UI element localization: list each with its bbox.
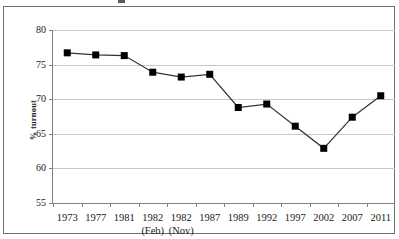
x-tick-label: 1982(Nov) (169, 211, 194, 237)
data-point-marker: 1989: 68.8 (235, 104, 242, 111)
x-tick-mark (196, 203, 197, 207)
y-tick-label: 70 (36, 94, 46, 104)
x-tick-mark (110, 203, 111, 207)
series-polyline (67, 53, 381, 148)
data-point-marker: 1973: 76.7 (64, 49, 71, 56)
x-tick-label: 1977 (85, 211, 106, 224)
x-tick-label: 1997 (285, 211, 306, 224)
data-point-marker: 1981: 76.3 (121, 52, 128, 59)
y-tick-label: 65 (36, 129, 46, 139)
data-point-marker: 1992: 69.3 (263, 101, 270, 108)
y-tick-label: 60 (36, 163, 46, 173)
data-point-marker: 1982: 73.9 (149, 69, 156, 76)
data-series-line: 1973: 76.71977: 76.41981: 76.31982: 73.9… (53, 30, 395, 203)
data-point-marker: 2007: 67.4 (349, 114, 356, 121)
x-tick-sublabel: (Feb) (141, 224, 164, 237)
x-tick-label: 2002 (313, 211, 334, 224)
x-tick-mark (253, 203, 254, 207)
x-tick-label: 1992 (256, 211, 277, 224)
x-tick-label: 1989 (228, 211, 249, 224)
x-tick-label: 2007 (342, 211, 363, 224)
data-point-marker: 2011: 70.5 (377, 92, 384, 99)
x-tick-mark (82, 203, 83, 207)
chart-figure: % turnout 556065707580 1973: 76.71977: 7… (0, 0, 399, 239)
figure-frame: % turnout 556065707580 1973: 76.71977: 7… (3, 6, 395, 234)
x-tick-mark (139, 203, 140, 207)
data-point-marker: 2002: 62.9 (320, 145, 327, 152)
x-tick-sublabel: (Nov) (169, 224, 194, 237)
x-tick-mark (367, 203, 368, 207)
x-tick-label: 1982(Feb) (141, 211, 164, 237)
y-tick-label: 75 (36, 60, 46, 70)
x-tick-mark (53, 203, 54, 207)
plot-area: 556065707580 1973: 76.71977: 76.41981: 7… (52, 30, 395, 204)
data-point-marker: 1997: 66.1 (292, 123, 299, 130)
x-tick-mark (167, 203, 168, 207)
y-tick-label: 80 (36, 25, 46, 35)
x-tick-mark (281, 203, 282, 207)
x-tick-mark (310, 203, 311, 207)
y-tick-label: 55 (36, 198, 46, 208)
x-tick-mark (224, 203, 225, 207)
data-point-marker: 1977: 76.4 (92, 51, 99, 58)
x-tick-label: 1973 (57, 211, 78, 224)
x-tick-label: 1987 (199, 211, 220, 224)
x-tick-mark (338, 203, 339, 207)
x-tick-label: 1981 (114, 211, 135, 224)
data-point-marker: 1987: 73.6 (206, 71, 213, 78)
x-tick-label: 2011 (370, 211, 391, 224)
data-point-marker: 1982: 73.2 (178, 74, 185, 81)
x-tick-mark (394, 203, 395, 207)
cropped-title-mark (118, 0, 125, 3)
